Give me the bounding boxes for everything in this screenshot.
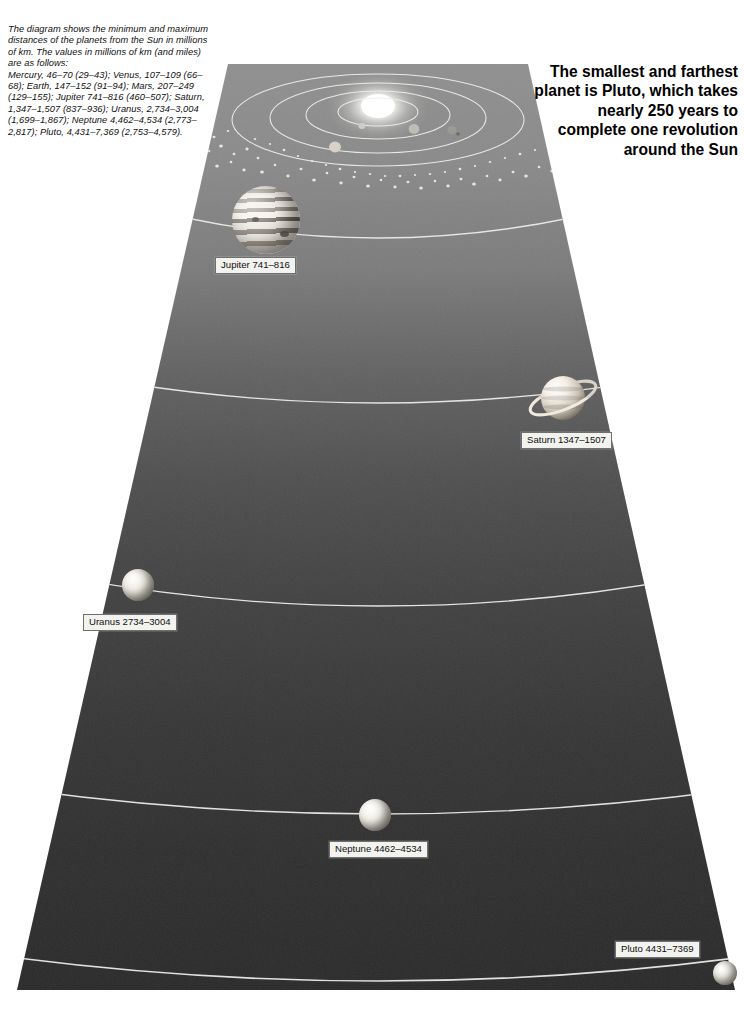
jupiter-band-spot (252, 217, 259, 222)
label-pluto: Pluto 4431–7369 (615, 941, 700, 958)
caption-distances: The diagram shows the minimum and maximu… (8, 24, 208, 138)
planet-mercury (359, 123, 366, 129)
planet-jupiter (232, 186, 300, 254)
planet-pluto (713, 961, 737, 985)
planet-uranus (122, 569, 154, 601)
planet-mars (329, 142, 341, 153)
jupiter-great-red-spot (280, 231, 289, 237)
label-uranus: Uranus 2734–3004 (83, 614, 177, 631)
planet-venus (409, 124, 420, 134)
planet-saturn (520, 358, 608, 438)
saturn-bands (541, 387, 585, 410)
label-neptune: Neptune 4462–4534 (329, 841, 428, 858)
caption-pluto-fact: The smallest and farthest planet is Plut… (532, 62, 738, 159)
solar-system-diagram: Jupiter 741–816 Saturn 1347–1507 Uranus … (0, 0, 744, 1010)
planet-earth (447, 126, 456, 135)
label-saturn: Saturn 1347–1507 (521, 432, 612, 449)
planet-earth-moon (456, 132, 460, 135)
label-jupiter: Jupiter 741–816 (215, 257, 296, 274)
planet-neptune (359, 799, 391, 831)
